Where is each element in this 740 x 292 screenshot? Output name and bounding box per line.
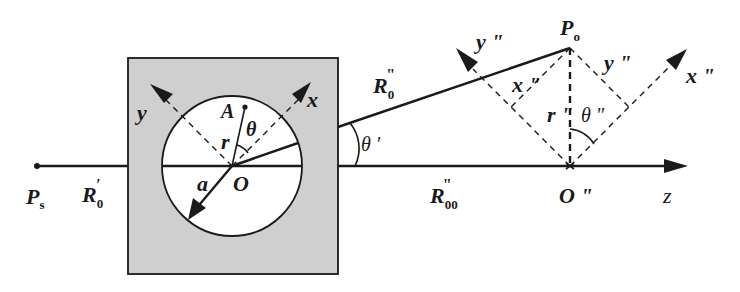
label-radius-r-dp: r " bbox=[547, 102, 573, 127]
point-a-dot bbox=[242, 104, 247, 109]
theta-dp-arc bbox=[570, 129, 594, 144]
diffraction-geometry-diagram: Ps R0′ y x A r θ O a θ ′ R0" R00" Po y "… bbox=[0, 0, 740, 292]
label-angle-theta-dp: θ " bbox=[581, 104, 605, 126]
label-angle-theta: θ bbox=[246, 118, 257, 140]
label-origin: O bbox=[233, 171, 249, 196]
label-axis-z: z bbox=[662, 183, 672, 208]
label-axial-distance: R00" bbox=[429, 176, 458, 212]
label-axis-x-dp: x " bbox=[685, 63, 715, 88]
label-origin-dp: O " bbox=[559, 183, 593, 208]
label-axis-x: x bbox=[306, 87, 318, 112]
axis-y-dp-arrowhead bbox=[456, 48, 478, 72]
label-projection-x-dp: x " bbox=[511, 72, 541, 97]
label-point-a: A bbox=[219, 100, 234, 122]
axis-x-dp-arrowhead bbox=[666, 49, 687, 70]
label-source-point: Ps bbox=[25, 184, 45, 212]
label-observation-distance: R0" bbox=[372, 66, 395, 102]
theta-prime-arc bbox=[350, 123, 359, 166]
source-point-dot bbox=[34, 163, 40, 169]
label-radius-a: a bbox=[197, 171, 208, 196]
label-source-distance: R0′ bbox=[81, 176, 103, 211]
label-angle-theta-prime: θ ′ bbox=[361, 133, 381, 155]
label-observation-point: Po bbox=[559, 15, 580, 44]
axis-z-arrowhead bbox=[664, 159, 688, 173]
label-axis-y-dp-right: y " bbox=[601, 50, 631, 75]
label-axis-y-dp-left: y " bbox=[473, 29, 503, 54]
label-radius-r: r bbox=[221, 129, 230, 154]
